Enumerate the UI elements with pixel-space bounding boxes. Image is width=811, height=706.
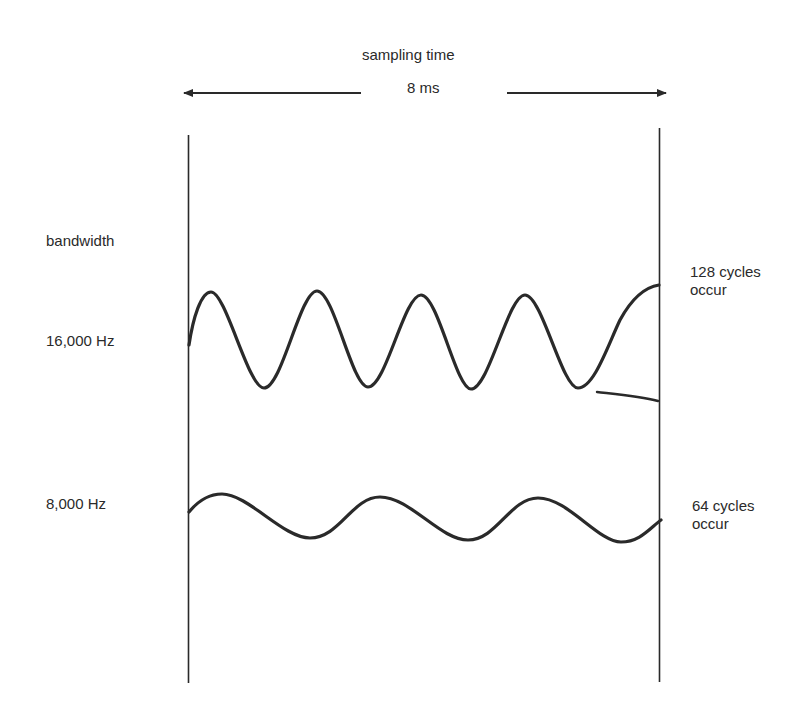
wave-8000hz [189, 494, 661, 542]
cycles-64-annotation: 64 cycles occur [692, 497, 755, 533]
cycles-64-line2: occur [692, 515, 755, 533]
wave-16000hz [189, 285, 659, 389]
cycles-128-line1: 128 cycles [690, 263, 761, 281]
stray-mark [597, 392, 658, 401]
cycles-128-line2: occur [690, 281, 761, 299]
cycles-64-line1: 64 cycles [692, 497, 755, 515]
cycles-128-annotation: 128 cycles occur [690, 263, 761, 299]
sampling-time-title: sampling time [362, 46, 455, 64]
duration-label: 8 ms [407, 79, 440, 97]
bandwidth-8000-label: 8,000 Hz [46, 495, 106, 513]
bandwidth-title: bandwidth [46, 232, 114, 250]
diagram-canvas [0, 0, 811, 706]
bandwidth-16000-label: 16,000 Hz [46, 332, 114, 350]
